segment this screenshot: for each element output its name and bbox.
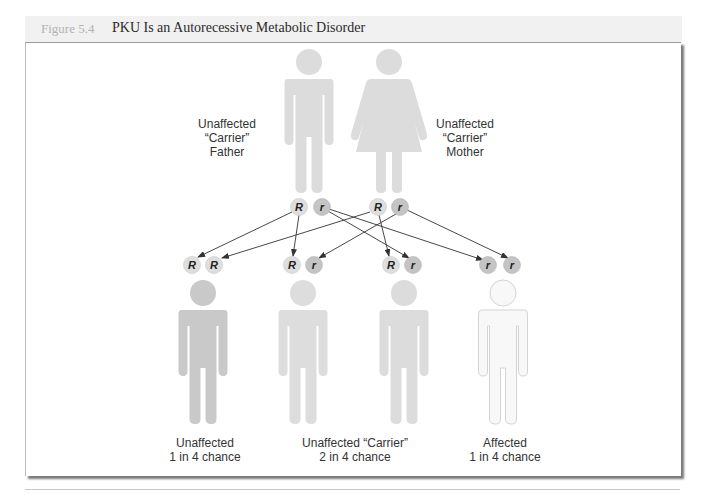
inheritance-diagram: R r R r R R R r R r r (0, 0, 706, 497)
child-2-carrier-figure (279, 280, 328, 424)
allele-label: R (374, 201, 382, 213)
allele-label: r (398, 201, 403, 213)
child-2-genotype: R r (284, 257, 323, 274)
father-label: Unaffected “Carrier” Father (198, 117, 256, 159)
father-figure (285, 49, 334, 193)
child-3-genotype: R r (383, 257, 422, 274)
outcome-label-carrier: Unaffected “Carrier” 2 in 4 chance (302, 436, 408, 464)
mother-alleles: R r (370, 199, 409, 216)
mother-label: Unaffected “Carrier” Mother (436, 117, 494, 159)
outcome-label-affected: Affected 1 in 4 chance (469, 436, 540, 464)
outcome-label-unaffected: Unaffected 1 in 4 chance (169, 436, 240, 464)
svg-text:R: R (387, 259, 395, 271)
child-1-genotype: R R (184, 257, 223, 274)
child-3-carrier-figure (380, 280, 429, 424)
child-4-affected-figure (479, 280, 528, 424)
child-1-unaffected-figure (179, 280, 228, 424)
svg-text:R: R (210, 259, 218, 271)
svg-text:r: r (312, 259, 317, 271)
allele-label: R (295, 201, 303, 213)
mother-figure (351, 49, 427, 193)
svg-text:R: R (188, 259, 196, 271)
svg-text:R: R (288, 259, 296, 271)
svg-text:r: r (486, 259, 491, 271)
father-alleles: R r (291, 199, 331, 216)
svg-text:r: r (510, 259, 515, 271)
svg-text:r: r (411, 259, 416, 271)
child-4-genotype: r r (480, 257, 521, 274)
inheritance-arrows (198, 209, 508, 260)
allele-label: r (320, 201, 325, 213)
